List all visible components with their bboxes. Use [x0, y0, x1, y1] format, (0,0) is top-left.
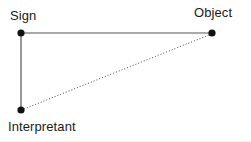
node-label-object: Object	[194, 6, 232, 20]
node-interpretant	[17, 106, 24, 113]
node-label-sign: Sign	[10, 9, 36, 23]
edge-interpretant-to-object	[24, 35, 209, 109]
semiotic-triad-figure: Sign Object Interpretant	[0, 0, 251, 142]
node-sign	[17, 29, 24, 36]
scan-bottom-edge	[0, 141, 251, 142]
node-object	[208, 29, 215, 36]
node-label-interpretant: Interpretant	[8, 120, 76, 134]
